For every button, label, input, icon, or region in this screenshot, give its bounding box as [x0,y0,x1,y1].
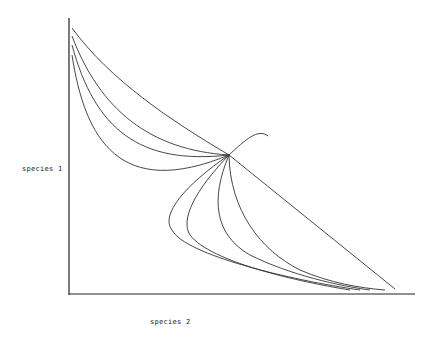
trajectory [229,155,385,290]
trajectory [229,155,395,289]
trajectory [72,36,229,155]
trajectory [169,155,360,290]
trajectory [72,45,229,157]
y-axis-label: species 1 [22,165,63,173]
x-axis-label: species 2 [150,318,191,326]
axes [69,18,415,295]
phase-plot [0,0,438,343]
trajectory [229,133,268,155]
trajectories [72,28,395,290]
trajectory [72,55,229,170]
trajectory [72,28,229,155]
trajectory [187,155,350,290]
trajectory [218,155,370,290]
